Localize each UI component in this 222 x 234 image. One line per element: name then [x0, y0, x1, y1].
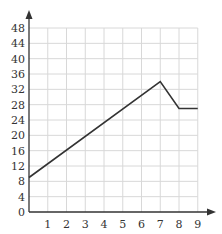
x-tick-label: 3	[82, 218, 89, 231]
y-tick-label: 16	[11, 145, 25, 158]
line-chart: 04812162024283236404448 123456789	[0, 0, 222, 234]
y-tick-label: 36	[11, 68, 25, 81]
y-tick-label: 28	[11, 99, 25, 112]
x-tick-label: 6	[138, 218, 145, 231]
x-tick-label: 8	[176, 218, 183, 231]
data-line	[29, 82, 198, 178]
x-axis-arrow-icon	[207, 209, 216, 216]
y-tick-label: 24	[11, 114, 25, 127]
y-tick-labels: 04812162024283236404448	[11, 22, 25, 219]
axes	[26, 10, 217, 216]
y-tick-label: 4	[18, 191, 25, 204]
x-tick-label: 4	[101, 218, 108, 231]
x-tick-label: 2	[63, 218, 70, 231]
y-tick-label: 20	[11, 129, 25, 142]
grid	[29, 28, 198, 212]
y-tick-label: 40	[11, 53, 25, 66]
x-tick-label: 9	[194, 218, 201, 231]
y-tick-label: 48	[11, 22, 25, 35]
y-tick-label: 32	[11, 83, 25, 96]
x-tick-labels: 123456789	[44, 218, 201, 231]
x-tick-label: 5	[119, 218, 126, 231]
y-tick-label: 0	[18, 206, 25, 219]
y-tick-label: 44	[11, 37, 25, 50]
y-tick-label: 8	[18, 175, 25, 188]
y-tick-label: 12	[11, 160, 25, 173]
y-axis-arrow-icon	[26, 10, 33, 19]
x-tick-label: 1	[44, 218, 51, 231]
x-tick-label: 7	[157, 218, 164, 231]
